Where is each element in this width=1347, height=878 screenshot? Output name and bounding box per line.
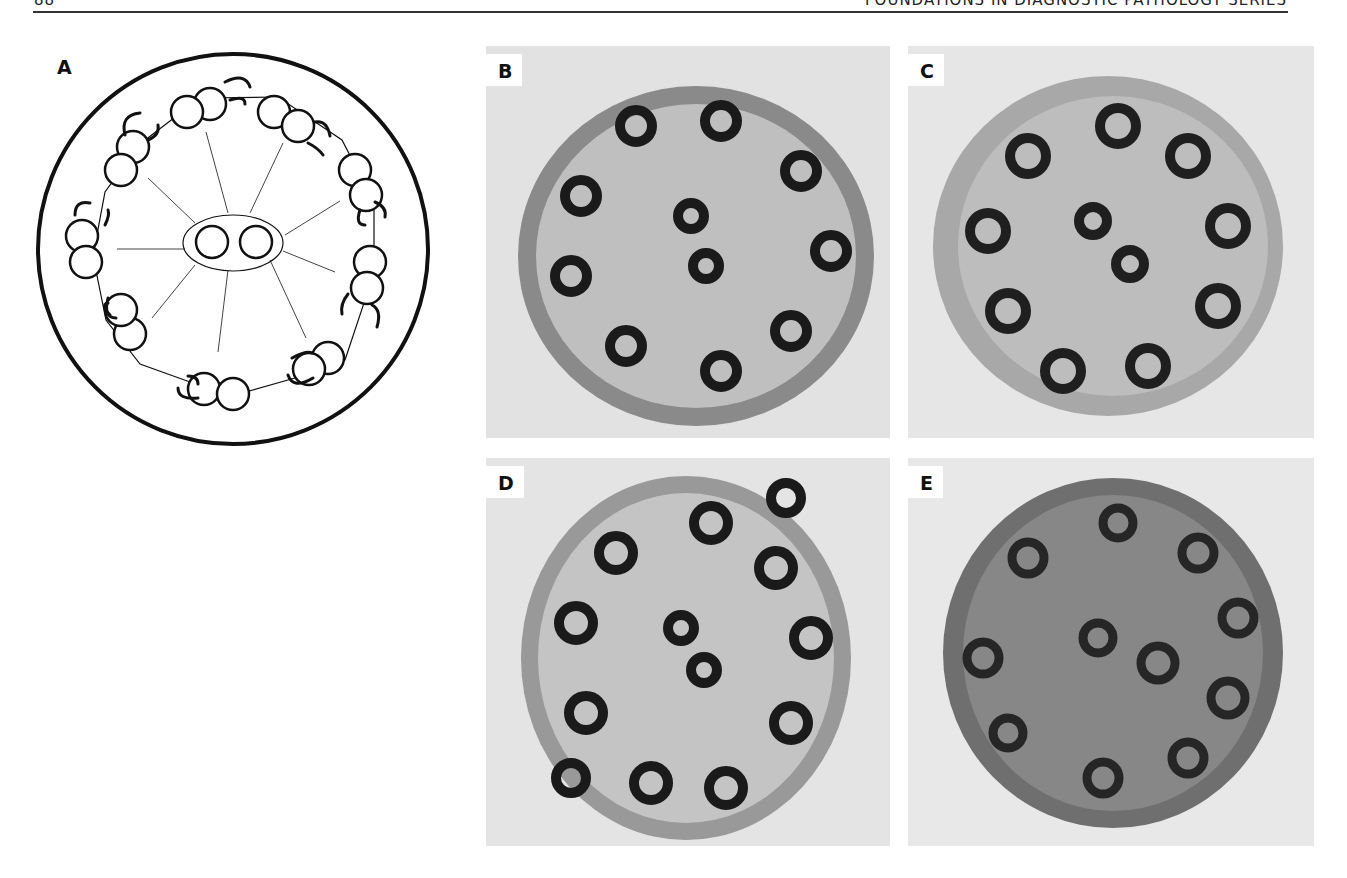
figure-panel-c: C	[908, 46, 1314, 438]
panel-label-d: D	[486, 466, 524, 498]
micrograph-e	[908, 458, 1314, 846]
figure-panel-e: E	[908, 458, 1314, 846]
running-header: FOUNDATIONS IN DIAGNOSTIC PATHOLOGY SERI…	[865, 0, 1287, 9]
page-number: 88	[34, 0, 55, 9]
figure-panel-a: A	[30, 40, 450, 460]
panel-label-b: B	[486, 54, 522, 86]
panel-label-c: C	[908, 54, 944, 86]
micrograph-d	[486, 458, 890, 846]
header-rule	[33, 11, 1288, 13]
figure-panel-b: B	[486, 46, 890, 438]
figure-panel-d: D	[486, 458, 890, 846]
panel-label-a: A	[57, 56, 72, 78]
micrograph-c	[908, 46, 1314, 438]
panel-label-e: E	[908, 466, 943, 498]
micrograph-b	[486, 46, 890, 438]
axoneme-diagram	[30, 40, 450, 460]
